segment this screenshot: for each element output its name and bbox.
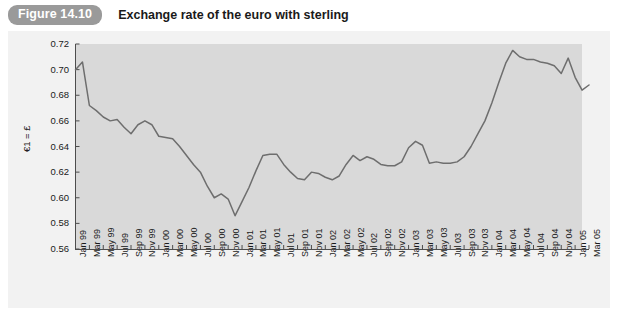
- axis-lines: [75, 44, 589, 250]
- chart-area: €1 = £ 0.720.700.680.660.640.620.600.580…: [8, 31, 610, 308]
- figure-container: Figure 14.10 Exchange rate of the euro w…: [0, 0, 618, 312]
- figure-header: Figure 14.10 Exchange rate of the euro w…: [8, 4, 349, 26]
- figure-number-badge: Figure 14.10: [8, 5, 102, 25]
- figure-title: Exchange rate of the euro with sterling: [118, 8, 349, 22]
- figure-panel: €1 = £ 0.720.700.680.660.640.620.600.580…: [8, 31, 610, 308]
- exchange-rate-line: [76, 50, 590, 215]
- x-axis-tick-marks: [76, 245, 590, 249]
- line-chart-svg: [8, 31, 610, 308]
- y-axis-tick-marks: [76, 44, 80, 249]
